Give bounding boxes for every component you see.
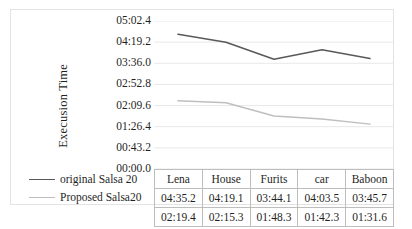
- table-column-header: House: [202, 170, 250, 189]
- table-cell: 01:31.6: [346, 208, 394, 227]
- legend-item[interactable]: original Salsa 20: [29, 170, 154, 188]
- line-chart-svg: [154, 21, 394, 169]
- gridlines: [154, 21, 394, 169]
- table-cell: 01:48.3: [250, 208, 298, 227]
- series-lines: [178, 34, 370, 124]
- y-tick-label: 02:52.8: [116, 78, 151, 90]
- table-row: 04:35.204:19.103:44.104:03.503:45.7: [155, 189, 394, 208]
- series-line: [178, 101, 370, 124]
- table-column-header: car: [298, 170, 346, 189]
- y-axis-title-label: Execusion Time: [56, 64, 71, 148]
- legend-label: original Salsa 20: [60, 173, 137, 185]
- plot-area: [154, 21, 394, 169]
- y-tick-label: 04:19.2: [116, 36, 151, 48]
- table-cell: 04:35.2: [155, 189, 203, 208]
- y-axis-title: Execusion Time: [56, 46, 70, 166]
- y-tick-label: 01:26.4: [116, 121, 151, 133]
- table-cell: 01:42.3: [298, 208, 346, 227]
- table-cell: 02:19.4: [155, 208, 203, 227]
- chart-legend: original Salsa 20Proposed Salsa20: [29, 169, 154, 206]
- table-column-header: Furits: [250, 170, 298, 189]
- table-column-header: Lena: [155, 170, 203, 189]
- table-header-row: LenaHouseFuritscarBaboon: [155, 170, 394, 189]
- table-row: 02:19.402:15.301:48.301:42.301:31.6: [155, 208, 394, 227]
- y-tick-label: 05:02.4: [116, 15, 151, 27]
- legend-item[interactable]: Proposed Salsa20: [29, 188, 154, 206]
- table-column-header: Baboon: [346, 170, 394, 189]
- chart-figure: Execusion Time 00:00.000:43.201:26.402:0…: [10, 9, 394, 205]
- series-line: [178, 34, 370, 59]
- data-table: LenaHouseFuritscarBaboon04:35.204:19.103…: [154, 169, 394, 227]
- legend-label: Proposed Salsa20: [60, 191, 141, 203]
- y-tick-label: 00:43.2: [116, 142, 151, 154]
- table-cell: 04:03.5: [298, 189, 346, 208]
- y-tick-label: 02:09.6: [116, 100, 151, 112]
- table-cell: 04:19.1: [202, 189, 250, 208]
- legend-color-swatch: [29, 179, 55, 180]
- table-cell: 03:44.1: [250, 189, 298, 208]
- y-tick-label: 03:36.0: [116, 57, 151, 69]
- table-cell: 03:45.7: [346, 189, 394, 208]
- table-cell: 02:15.3: [202, 208, 250, 227]
- y-axis-tick-labels: 00:00.000:43.201:26.402:09.602:52.803:36…: [97, 21, 151, 169]
- legend-color-swatch: [29, 197, 55, 198]
